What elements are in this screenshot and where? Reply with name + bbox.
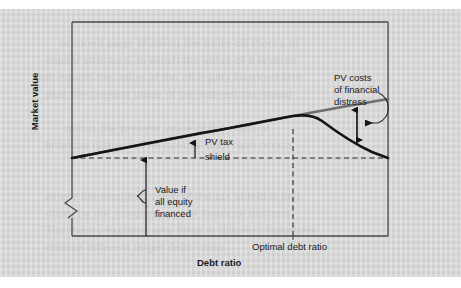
value-all-equity-brace-icon — [137, 190, 146, 203]
y-axis-title: Market value — [29, 55, 40, 149]
x-axis-title: Debt ratio — [197, 257, 241, 269]
annotation-pv-tax-shield-line1: PV tax — [205, 136, 233, 148]
annotation-pv-distress-line1: PV costs — [334, 72, 372, 84]
y-axis-break-icon — [65, 198, 77, 218]
pv-distress-curved-pointer-icon — [366, 93, 388, 123]
annotation-optimal-debt-ratio: Optimal debt ratio — [252, 241, 327, 253]
annotation-pv-tax-shield-line2: shield — [205, 151, 230, 163]
annotation-value-all-equity-line2: all equity — [155, 196, 193, 208]
annotation-value-all-equity-line3: financed — [155, 208, 191, 220]
figure-container: scanned page showing the trade-off theor… — [0, 0, 461, 288]
annotation-pv-distress-line3: distress — [334, 96, 367, 108]
annotation-pv-distress-line2: of financial — [334, 84, 379, 96]
annotation-value-all-equity-line1: Value if — [155, 184, 186, 196]
